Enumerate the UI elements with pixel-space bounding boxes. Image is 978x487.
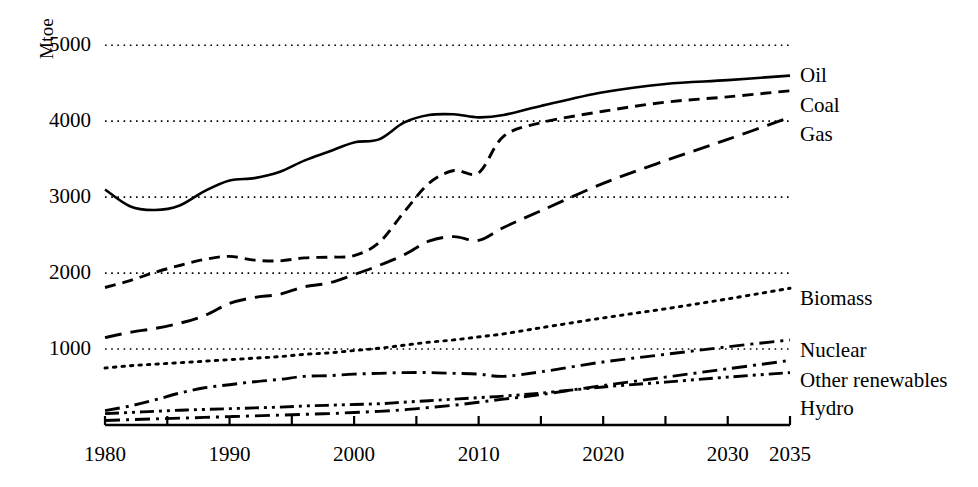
- legend-label-biomass: Biomass: [800, 288, 872, 309]
- legend-label-hydro: Hydro: [800, 398, 854, 419]
- energy-demand-line-chart: Mtoe 50004000300020001000 19801990200020…: [0, 0, 978, 487]
- legend-label-other-renewables: Other renewables: [800, 370, 948, 391]
- legend-label-nuclear: Nuclear: [800, 340, 866, 361]
- legend-label-coal: Coal: [800, 95, 840, 116]
- legend-label-gas: Gas: [800, 124, 833, 145]
- legend-label-oil: Oil: [800, 65, 827, 86]
- legend: OilCoalGasBiomassNuclearOther renewables…: [0, 0, 978, 487]
